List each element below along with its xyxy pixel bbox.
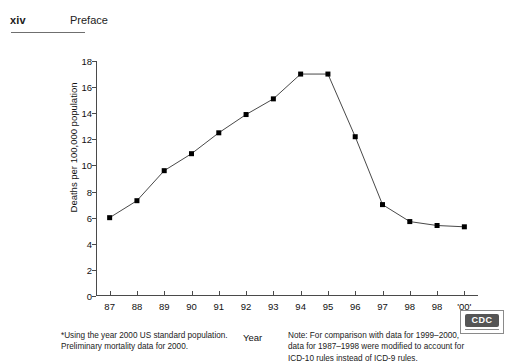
series-line: [110, 74, 465, 227]
data-point-93: [271, 96, 276, 101]
x-tick-label: 88: [132, 301, 143, 312]
x-tick-label: 94: [295, 301, 306, 312]
x-tick-label: 92: [241, 301, 252, 312]
y-axis-label: Deaths per 100,000 population: [68, 48, 79, 248]
data-point-89: [162, 168, 167, 173]
data-point-98: [407, 219, 412, 224]
y-tick-label: 6: [87, 212, 92, 223]
header-rule: [11, 32, 85, 33]
data-series: [96, 61, 478, 296]
y-tick-mark: [92, 113, 96, 114]
x-tick-label: 98: [432, 301, 443, 312]
x-tick-mark: [410, 291, 411, 296]
y-tick-mark: [92, 192, 96, 193]
x-tick-label: 97: [377, 301, 388, 312]
x-tick-mark: [383, 291, 384, 296]
y-tick-mark: [92, 139, 96, 140]
running-head: Preface: [70, 14, 108, 26]
y-tick-label: 4: [87, 238, 92, 249]
cdc-logo-text: CDC: [465, 314, 499, 327]
y-tick-mark: [92, 87, 96, 88]
data-point-'00': [462, 224, 467, 229]
x-tick-mark: [355, 291, 356, 296]
note-left-line-1: Preliminary mortality data for 2000.: [61, 341, 251, 352]
x-tick-label: 91: [213, 301, 224, 312]
y-tick-mark: [92, 165, 96, 166]
y-tick-label: 8: [87, 186, 92, 197]
data-point-90: [189, 151, 194, 156]
x-tick-mark: [328, 291, 329, 296]
y-tick-label: 16: [81, 82, 92, 93]
y-tick-label: 10: [81, 160, 92, 171]
y-tick-label: 14: [81, 108, 92, 119]
x-tick-mark: [464, 291, 465, 296]
cdc-logo: CDC: [460, 310, 504, 334]
data-point-91: [216, 130, 221, 135]
page-header: xiv Preface: [10, 14, 210, 40]
figure-note-left: *Using the year 2000 US standard populat…: [61, 330, 251, 353]
y-tick-label: 0: [87, 291, 92, 302]
data-point-87: [107, 215, 112, 220]
x-tick-label: 95: [323, 301, 334, 312]
x-tick-mark: [246, 291, 247, 296]
figure-note-right: Note: For comparison with data for 1999–…: [288, 330, 488, 364]
x-tick-mark: [301, 291, 302, 296]
data-point-98: [435, 223, 440, 228]
plot-area: 0246810121416188788899091929394959697989…: [96, 61, 478, 296]
data-point-92: [244, 112, 249, 117]
x-tick-label: 87: [104, 301, 115, 312]
x-tick-label: 96: [350, 301, 361, 312]
y-tick-label: 2: [87, 264, 92, 275]
y-tick-label: 18: [81, 56, 92, 67]
x-tick-mark: [192, 291, 193, 296]
y-tick-mark: [92, 61, 96, 62]
y-tick-mark: [92, 218, 96, 219]
x-tick-mark: [437, 291, 438, 296]
data-point-94: [298, 72, 303, 77]
page-number: xiv: [10, 14, 26, 26]
note-left-line-0: *Using the year 2000 US standard populat…: [61, 330, 251, 341]
x-tick-label: 90: [186, 301, 197, 312]
x-tick-label: 93: [268, 301, 279, 312]
x-tick-mark: [273, 291, 274, 296]
cdc-logo-underline: [465, 329, 499, 330]
x-tick-label: 89: [159, 301, 170, 312]
x-tick-mark: [110, 291, 111, 296]
note-right-line-1: data for 1987–1998 were modified to acco…: [288, 341, 488, 352]
data-point-95: [325, 72, 330, 77]
y-tick-mark: [92, 244, 96, 245]
note-right-line-0: Note: For comparison with data for 1999–…: [288, 330, 488, 341]
data-point-88: [134, 198, 139, 203]
x-tick-mark: [219, 291, 220, 296]
y-tick-label: 12: [81, 134, 92, 145]
y-tick-mark: [92, 296, 96, 297]
data-point-96: [353, 134, 358, 139]
x-tick-label: 98: [404, 301, 415, 312]
x-tick-mark: [137, 291, 138, 296]
y-tick-mark: [92, 270, 96, 271]
figure-chart: Deaths per 100,000 population 0246810121…: [0, 46, 513, 338]
data-point-97: [380, 202, 385, 207]
note-right-line-2: ICD-10 rules instead of ICD-9 rules.: [288, 353, 488, 364]
x-tick-mark: [164, 291, 165, 296]
